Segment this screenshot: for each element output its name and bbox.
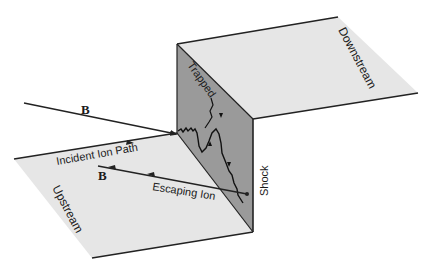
shock-diagram: Downstream Trapped Shock Upstream Incide…	[0, 0, 430, 268]
shock-label: Shock	[258, 165, 270, 196]
b-field-upper-label: B	[81, 102, 90, 117]
b-field-upper-arrow	[24, 103, 176, 134]
b-field-lower-label: B	[98, 168, 107, 183]
